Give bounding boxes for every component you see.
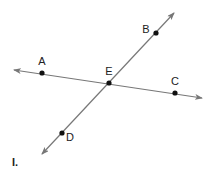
label-d: D [66, 131, 74, 143]
figure-caption: I. [12, 156, 18, 168]
point-e [106, 80, 111, 85]
label-e: E [105, 65, 112, 77]
point-b [153, 30, 158, 35]
point-d [59, 130, 64, 135]
label-b: B [142, 23, 149, 35]
point-a [39, 70, 44, 75]
label-a: A [38, 55, 46, 67]
geometry-diagram: ABECD I. [0, 0, 214, 175]
point-c [172, 90, 177, 95]
label-c: C [171, 75, 179, 87]
